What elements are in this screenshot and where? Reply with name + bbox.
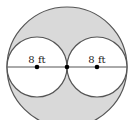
left-radius-label: 8 ft — [28, 54, 45, 65]
tangent-point — [65, 65, 70, 70]
right-radius-label: 8 ft — [88, 54, 105, 65]
left-center-point — [35, 65, 40, 70]
circles-diagram: 8 ft 8 ft — [0, 0, 133, 120]
right-center-point — [95, 65, 100, 70]
